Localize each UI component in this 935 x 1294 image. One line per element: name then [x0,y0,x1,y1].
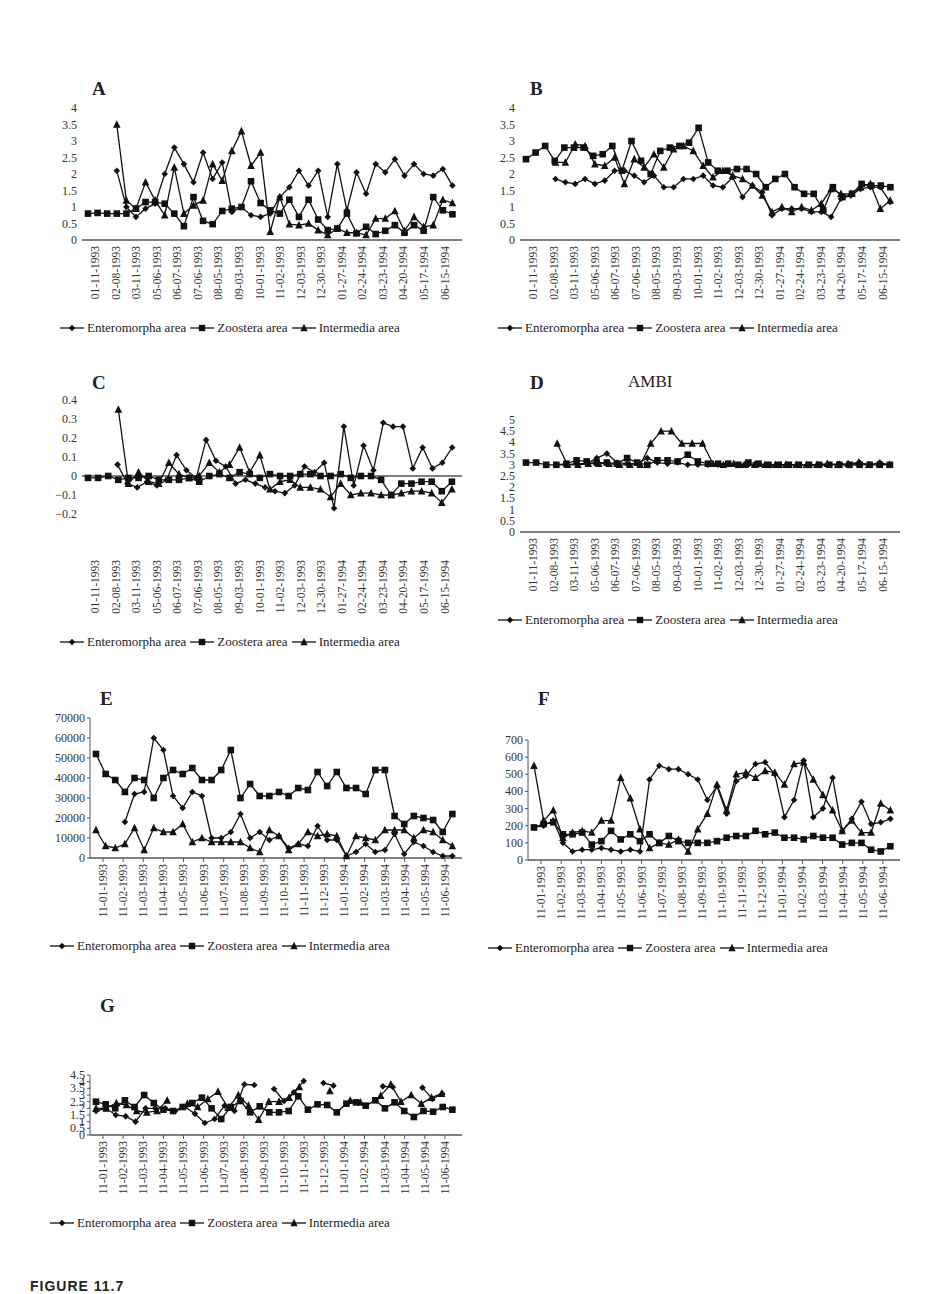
svg-text:06-07-1993: 06-07-1993 [171,246,183,300]
svg-text:100: 100 [505,836,523,850]
svg-text:200: 200 [505,819,523,833]
legend-item-intermedia: Intermedia area [292,320,400,336]
figure-caption: FIGURE 11.7 [30,1278,124,1294]
svg-text:0: 0 [71,233,77,247]
svg-text:11-05-1994: 11-05-1994 [419,864,431,917]
svg-text:03-23-1994: 03-23-1994 [377,246,389,300]
svg-text:2.5: 2.5 [62,151,77,165]
svg-text:−0.1: −0.1 [55,488,77,502]
svg-text:300: 300 [505,802,523,816]
svg-text:10-01-1993: 10-01-1993 [692,538,704,592]
svg-text:700: 700 [505,733,523,747]
legend-item-zoostera: Zoostera area [628,320,725,336]
svg-text:07-06-1993: 07-06-1993 [192,246,204,300]
svg-text:11-03-1993: 11-03-1993 [137,1141,149,1194]
svg-text:12-30-1993: 12-30-1993 [753,538,765,592]
svg-text:11-10-1993: 11-10-1993 [278,864,290,917]
svg-text:12-03-1993: 12-03-1993 [733,246,745,300]
svg-text:11-02-1993: 11-02-1993 [712,538,724,591]
svg-text:04-20-1994: 04-20-1994 [835,538,847,592]
svg-text:08-05-1993: 08-05-1993 [212,246,224,300]
svg-text:500: 500 [505,767,523,781]
svg-text:12-03-1993: 12-03-1993 [295,560,307,614]
svg-text:11-04-1993: 11-04-1993 [157,1141,169,1194]
legend-item-zoostera: Zoostera area [628,612,725,628]
svg-text:05-17-1994: 05-17-1994 [418,246,430,300]
svg-text:11-02-1993: 11-02-1993 [712,246,724,299]
triangle-marker-icon [292,636,316,648]
chart-f: F010020030040050060070011-01-199311-02-1… [478,690,918,970]
legend: Enteromorpha areaZoostera areaIntermedia… [60,634,400,650]
legend-item-enteromorpha: Enteromorpha area [60,320,186,336]
legend-item-enteromorpha: Enteromorpha area [60,634,186,650]
svg-text:0: 0 [79,851,85,865]
legend-item-intermedia: Intermedia area [720,940,828,956]
svg-text:0: 0 [509,233,515,247]
svg-text:11-02-1994: 11-02-1994 [358,1141,370,1194]
svg-text:0.5: 0.5 [500,217,515,231]
svg-text:11-05-1994: 11-05-1994 [419,1141,431,1194]
legend: Enteromorpha areaZoostera areaIntermedia… [50,938,390,954]
svg-text:11-01-1993: 11-01-1993 [97,864,109,917]
diamond-marker-icon [488,942,512,954]
svg-text:11-06-1993: 11-06-1993 [198,864,210,917]
svg-text:10000: 10000 [55,831,85,845]
svg-text:07-06-1993: 07-06-1993 [630,538,642,592]
triangle-marker-icon [292,322,316,334]
svg-text:11-01-1993: 11-01-1993 [535,866,547,919]
svg-text:08-05-1993: 08-05-1993 [650,538,662,592]
legend-item-intermedia: Intermedia area [730,320,838,336]
svg-text:11-12-1993: 11-12-1993 [756,866,768,919]
square-marker-icon [618,942,642,954]
chart-d: DAMBI00.511.522.533.544.5501-11-199302-0… [478,372,918,657]
legend-item-intermedia: Intermedia area [282,938,390,954]
svg-text:3.5: 3.5 [500,118,515,132]
svg-text:11-05-1994: 11-05-1994 [857,866,869,919]
svg-text:11-01-1994: 11-01-1994 [338,864,350,917]
diamond-marker-icon [60,322,84,334]
svg-text:20000: 20000 [55,811,85,825]
svg-text:11-10-1993: 11-10-1993 [716,866,728,919]
svg-text:11-04-1994: 11-04-1994 [399,864,411,917]
svg-text:11-02-1993: 11-02-1993 [274,560,286,613]
svg-text:3: 3 [71,134,77,148]
svg-text:4: 4 [509,101,515,115]
legend-item-enteromorpha: Enteromorpha area [498,320,624,336]
svg-text:09-03-1993: 09-03-1993 [233,560,245,614]
diamond-marker-icon [498,614,522,626]
svg-text:04-20-1994: 04-20-1994 [835,246,847,300]
svg-text:02-24-1994: 02-24-1994 [356,560,368,614]
plot-area: 010020030040050060070011-01-199311-02-19… [478,690,918,970]
svg-text:60000: 60000 [55,731,85,745]
svg-text:09-03-1993: 09-03-1993 [671,246,683,300]
svg-text:05-06-1993: 05-06-1993 [589,246,601,300]
legend-item-enteromorpha: Enteromorpha area [50,938,176,954]
svg-text:02-08-1993: 02-08-1993 [548,246,560,300]
legend-item-enteromorpha: Enteromorpha area [488,940,614,956]
svg-text:03-23-1994: 03-23-1994 [815,538,827,592]
legend: Enteromorpha areaZoostera areaIntermedia… [50,1215,390,1231]
svg-text:02-24-1994: 02-24-1994 [356,246,368,300]
svg-text:01-27-1994: 01-27-1994 [336,560,348,614]
svg-text:05-17-1994: 05-17-1994 [856,246,868,300]
series-triangle [530,758,894,855]
svg-text:07-06-1993: 07-06-1993 [192,560,204,614]
square-marker-icon [190,322,214,334]
svg-text:03-23-1994: 03-23-1994 [815,246,827,300]
diamond-marker-icon [498,322,522,334]
chart-g: G00.511.522.533.544.511-01-199311-02-199… [40,995,480,1275]
square-marker-icon [180,1217,204,1229]
svg-text:11-06-1994: 11-06-1994 [439,864,451,917]
legend-item-zoostera: Zoostera area [618,940,715,956]
legend-item-intermedia: Intermedia area [282,1215,390,1231]
svg-text:01-11-1993: 01-11-1993 [527,538,539,591]
svg-text:09-03-1993: 09-03-1993 [671,538,683,592]
svg-text:11-08-1993: 11-08-1993 [238,864,250,917]
svg-text:11-09-1993: 11-09-1993 [258,864,270,917]
svg-text:11-04-1993: 11-04-1993 [157,864,169,917]
svg-text:06-15-1994: 06-15-1994 [439,246,451,300]
svg-text:0: 0 [517,853,523,867]
legend: Enteromorpha areaZoostera areaIntermedia… [488,940,828,956]
svg-text:11-03-1993: 11-03-1993 [137,864,149,917]
svg-text:0: 0 [71,469,77,483]
